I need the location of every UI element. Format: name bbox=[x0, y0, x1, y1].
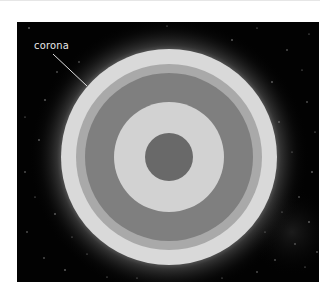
sun-diagram-panel: corona bbox=[17, 22, 319, 282]
sun-diagram bbox=[17, 22, 319, 282]
layer-core bbox=[145, 133, 193, 181]
top-divider bbox=[0, 0, 320, 1]
corona-label: corona bbox=[34, 39, 69, 52]
